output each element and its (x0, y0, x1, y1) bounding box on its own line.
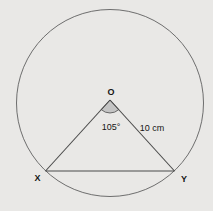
center-label: O (107, 87, 114, 97)
radius-label: 10 cm (140, 123, 165, 133)
circle-diagram: O 105° 10 cm X Y (0, 0, 213, 211)
angle-label: 105° (102, 122, 121, 132)
vertex-y-label: Y (181, 174, 187, 184)
geometry-figure: O 105° 10 cm X Y (0, 0, 213, 211)
vertex-x-label: X (34, 173, 40, 183)
